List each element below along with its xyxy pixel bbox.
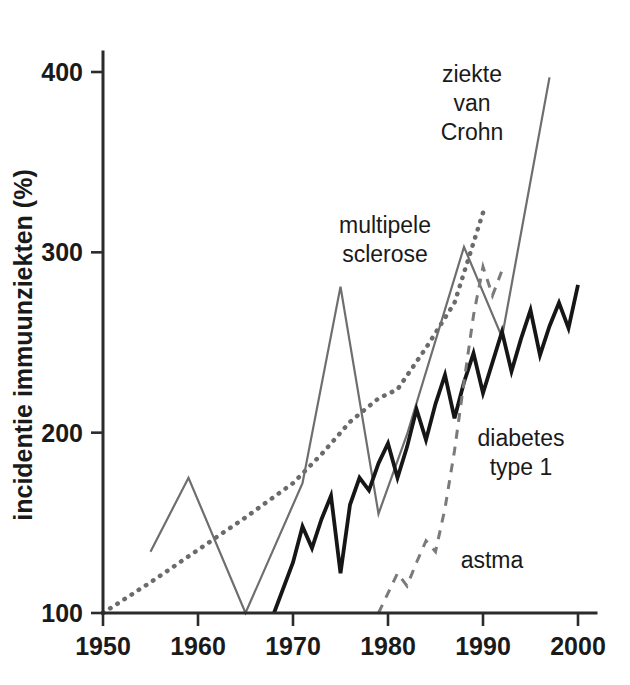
x-tick-label: 1990 [455, 632, 511, 660]
series-label-line: ziekte [442, 61, 502, 87]
figure-root: 100200300400195019601970198019902000 mul… [0, 0, 630, 685]
x-tick-label: 1970 [265, 632, 321, 660]
series-label-line: diabetes [478, 425, 565, 451]
series-label-line: Crohn [441, 119, 504, 145]
series-label-line: multipele [339, 212, 431, 238]
x-tick-label: 1960 [170, 632, 226, 660]
y-axis-title: incidentie immuunziekten (%) [9, 169, 37, 520]
immune-disease-incidence-chart: 100200300400195019601970198019902000 mul… [0, 0, 630, 685]
series-label-line: type 1 [490, 454, 553, 480]
x-tick-label: 1980 [360, 632, 416, 660]
y-tick-label: 400 [41, 58, 83, 86]
series-label-line: sclerose [342, 241, 428, 267]
series-label-line: van [453, 90, 490, 116]
y-tick-label: 200 [41, 419, 83, 447]
y-tick-label: 100 [41, 599, 83, 627]
x-tick-label: 2000 [550, 632, 606, 660]
x-tick-label: 1950 [75, 632, 131, 660]
series-label-astma: astma [461, 547, 524, 573]
y-tick-label: 300 [41, 238, 83, 266]
series-label-line: astma [461, 547, 524, 573]
